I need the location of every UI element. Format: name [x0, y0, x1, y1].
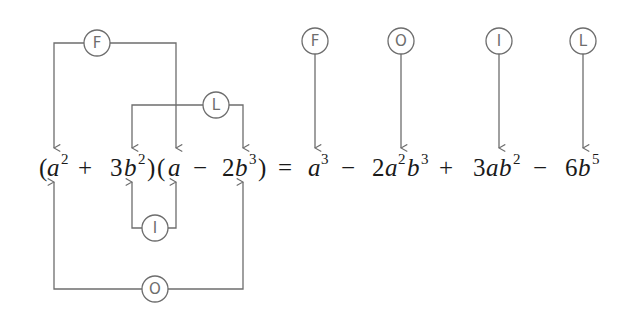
- rhs-term-b: b: [407, 154, 420, 181]
- label-outer-result-icon: O: [388, 28, 414, 54]
- coef-3: 3: [110, 154, 123, 181]
- svg-text:F: F: [311, 32, 320, 50]
- label-inner-result-icon: I: [486, 28, 512, 54]
- result-marker-inner: I: [486, 28, 512, 148]
- term-a: a: [168, 154, 181, 181]
- rhs-exp: 3: [421, 151, 429, 167]
- term-a: a: [47, 154, 60, 181]
- rhs-exp: 2: [398, 151, 406, 167]
- connector-last: L: [132, 92, 243, 148]
- paren-open-2: (: [157, 154, 165, 182]
- svg-text:O: O: [395, 32, 407, 50]
- svg-text:I: I: [497, 32, 501, 50]
- svg-text:I: I: [153, 219, 157, 237]
- coef-2: 2: [222, 154, 235, 181]
- svg-text:L: L: [212, 96, 221, 114]
- rhs-exp: 2: [513, 151, 521, 167]
- rhs-exp: 5: [592, 151, 600, 167]
- rhs-coef-3: 3: [473, 154, 486, 181]
- rhs-op-minus: −: [533, 154, 547, 181]
- connector-outer: O: [54, 182, 243, 302]
- equals-sign: =: [278, 154, 292, 181]
- rhs-term-a: a: [486, 154, 499, 181]
- rhs-term-a: a: [385, 154, 398, 181]
- rhs-term-b: b: [578, 154, 591, 181]
- rhs-op-plus: +: [439, 154, 453, 181]
- svg-text:F: F: [93, 34, 102, 52]
- equation: ( a 2 + 3 b 2 ) ( a − 2 b 3 ) = a 3 − 2 …: [39, 151, 600, 182]
- exp-2: 2: [61, 151, 69, 167]
- svg-text:O: O: [149, 280, 161, 298]
- label-last-icon: L: [203, 92, 229, 118]
- connector-first: F: [54, 30, 176, 148]
- rhs-term-b: b: [499, 154, 512, 181]
- label-first-icon: F: [84, 30, 110, 56]
- paren-close-2: ): [258, 154, 266, 182]
- exp-3: 3: [249, 151, 257, 167]
- term-b: b: [124, 154, 137, 181]
- result-marker-first: F: [302, 28, 328, 148]
- svg-text:L: L: [579, 32, 588, 50]
- result-marker-outer: O: [388, 28, 414, 148]
- rhs-exp: 3: [321, 151, 329, 167]
- rhs-op-minus: −: [341, 154, 355, 181]
- label-outer-icon: O: [142, 276, 168, 302]
- rhs-coef-6: 6: [565, 154, 578, 181]
- label-inner-icon: I: [142, 215, 168, 241]
- term-b: b: [235, 154, 248, 181]
- foil-diagram: F L I O F: [0, 0, 623, 319]
- op-plus: +: [78, 154, 92, 181]
- label-first-result-icon: F: [302, 28, 328, 54]
- connector-inner: I: [132, 182, 176, 241]
- rhs-coef-2: 2: [372, 154, 385, 181]
- paren-close-1: ): [147, 154, 155, 182]
- result-marker-last: L: [570, 28, 596, 148]
- label-last-result-icon: L: [570, 28, 596, 54]
- op-minus: −: [193, 154, 207, 181]
- exp-2: 2: [138, 151, 146, 167]
- rhs-term-a: a: [308, 154, 321, 181]
